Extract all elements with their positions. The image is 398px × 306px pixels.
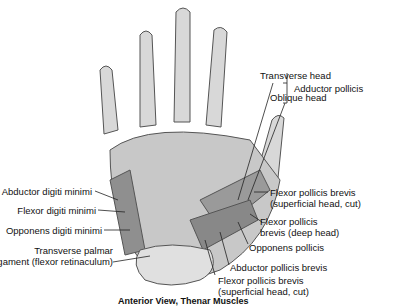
label-transverse-head: Transverse head — [260, 70, 331, 81]
label-fpb-deep: Flexor pollicis brevis (deep head) — [260, 216, 339, 238]
label-line-2: ligament (flexor retinaculum) — [0, 256, 113, 267]
label-adductor-pollicis: Adductor pollicis — [294, 83, 363, 94]
label-line-1: Flexor pollicis brevis — [270, 187, 361, 198]
label-line-1: Flexor pollicis brevis — [218, 275, 309, 286]
label-line-2: (superficial head, cut) — [270, 198, 361, 209]
label-opponens-digiti-minimi: Opponens digiti minimi — [6, 225, 102, 236]
label-fpb-superficial: Flexor pollicis brevis (superficial head… — [270, 187, 361, 209]
label-fpb-bottom: Flexor pollicis brevis (superficial head… — [218, 275, 309, 297]
label-flexor-digiti-minimi: Flexor digiti minimi — [17, 205, 96, 216]
label-line-2: brevis (deep head) — [260, 227, 339, 238]
label-opponens-pollicis: Opponens pollicis — [249, 242, 324, 253]
label-abductor-digiti-minimi: Abductor digiti minimi — [2, 186, 92, 197]
label-abductor-pollicis-brevis: Abductor pollicis brevis — [230, 262, 327, 273]
label-line-1: Flexor pollicis — [260, 216, 339, 227]
label-transverse-palmar-ligament: Transverse palmar ligament (flexor retin… — [0, 245, 113, 267]
label-line-1: Transverse palmar — [0, 245, 113, 256]
figure-caption: Anterior View, Thenar Muscles — [118, 296, 249, 306]
